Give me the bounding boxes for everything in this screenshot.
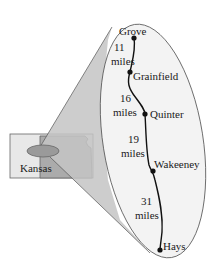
- distance-value-4: 31: [141, 195, 152, 207]
- distance-unit-3: miles: [121, 147, 145, 159]
- town-label-quinter: Quinter: [150, 108, 184, 120]
- distance-unit-1: miles: [111, 55, 135, 67]
- town-dot-hays: [157, 247, 162, 252]
- distance-value-1: 11: [114, 41, 125, 53]
- state-label-kansas: Kansas: [20, 162, 52, 174]
- diagram-svg: Grove Grainfield Quinter Wakeeney Hays 1…: [0, 0, 216, 273]
- distance-value-3: 19: [128, 133, 140, 145]
- distance-value-2: 16: [120, 92, 132, 104]
- town-label-grove: Grove: [119, 25, 147, 37]
- town-label-hays: Hays: [163, 240, 186, 252]
- town-dot-grainfield: [127, 69, 132, 74]
- distance-unit-4: miles: [135, 209, 159, 221]
- kansas-route-diagram: Grove Grainfield Quinter Wakeeney Hays 1…: [0, 0, 216, 273]
- town-dot-quinter: [142, 111, 147, 116]
- town-label-wakeeney: Wakeeney: [154, 158, 200, 170]
- region-highlight-ellipse: [27, 145, 59, 157]
- town-label-grainfield: Grainfield: [133, 70, 179, 82]
- distance-unit-2: miles: [113, 106, 137, 118]
